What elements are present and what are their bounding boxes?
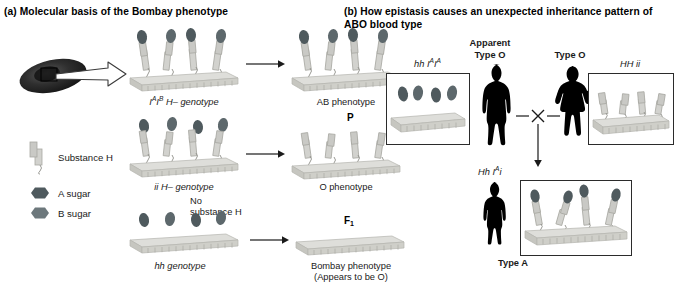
genotype-bombay-rest: genotype: [165, 261, 206, 271]
arrow-row-3: [250, 234, 290, 246]
generation-label-f1-sub: 1: [350, 220, 354, 227]
panel-b-title: How epistasis causes an unexpected inher…: [344, 6, 652, 30]
substance-h-icon: [26, 140, 56, 174]
legend-item-b-sugar: B sugar: [26, 206, 91, 220]
offspring-cell-frame: [520, 180, 632, 256]
panel-a-title: Molecular basis of the Bombay phenotype: [20, 6, 228, 17]
arrow-row-2: [246, 148, 286, 160]
membrane-bombay-genotype: [128, 212, 240, 262]
red-blood-cell-graphic: [16, 52, 141, 102]
legend-label-a-sugar: A sugar: [58, 188, 91, 199]
legend-item-a-sugar: A sugar: [26, 186, 91, 200]
offspring-genotype-allele2: i: [499, 167, 501, 177]
panel-a-tag: (a): [4, 6, 17, 17]
parent-2-genotype-plain: HH ii: [620, 59, 640, 69]
b-sugar-icon: [26, 206, 56, 220]
no-substance-h-line1: No: [190, 196, 270, 207]
male-silhouette: [478, 62, 522, 146]
parent-2-cell-frame: [588, 73, 674, 145]
phenotype-label-bombay: Bombay phenotype (Appears to be O): [286, 261, 416, 283]
phenotype-label-o: O phenotype: [286, 182, 406, 193]
genotype-rest: H– genotype: [163, 97, 218, 107]
offspring-genotype-plain: Hh: [478, 167, 492, 177]
genotype-label-ab: IAIB H– genotype: [128, 97, 240, 108]
generation-label-p: P: [347, 112, 354, 123]
genotype-label-bombay: hh genotype: [124, 261, 236, 272]
bombay-phenotype-sub: (Appears to be O): [286, 272, 416, 283]
parent-1-phenotype-line1: Apparent: [450, 38, 530, 50]
child-silhouette: [480, 180, 514, 260]
parent-2-genotype: HH ii: [585, 59, 675, 70]
parent-1-genotype-plain: hh: [414, 59, 427, 69]
bombay-phenotype-main: Bombay phenotype: [286, 261, 416, 272]
parent-1-genotype-sup2: A: [437, 57, 441, 64]
parent-1-genotype: hh IAIA: [380, 59, 475, 70]
genotype-bombay-allele: hh: [154, 261, 164, 271]
offspring-phenotype: Type A: [468, 258, 558, 269]
genotype-label-o: ii H– genotype: [128, 182, 240, 193]
arrow-row-1: [246, 58, 286, 70]
legend-label-substance-h: Substance H: [58, 152, 113, 163]
offspring-genotype: Hh IAi: [478, 167, 568, 178]
membrane-ab-genotype: [128, 28, 240, 96]
panel-a-heading: (a)Molecular basis of the Bombay phenoty…: [4, 6, 334, 19]
a-sugar-icon: [26, 186, 56, 200]
legend-label-b-sugar: B sugar: [58, 208, 91, 219]
parent-1-phenotype: Apparent Type O: [450, 38, 530, 61]
parent-1-cell-frame: [386, 73, 470, 145]
generation-label-f1: F1: [344, 215, 354, 226]
panel-b-tag: (b): [344, 6, 357, 17]
genotype-o-rest: H– genotype: [158, 182, 213, 192]
membrane-bombay-phenotype: [294, 224, 406, 264]
membrane-o-genotype: [128, 118, 240, 180]
descent-arrow: [532, 124, 544, 168]
panel-b-heading: (b)How epistasis causes an unexpected in…: [344, 6, 662, 31]
legend-item-substance-h: Substance H: [26, 140, 113, 174]
